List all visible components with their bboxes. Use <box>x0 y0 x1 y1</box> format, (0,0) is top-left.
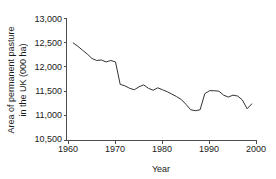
y-tick-label: 12,500 <box>34 38 62 48</box>
x-tick-label: 2000 <box>246 144 266 154</box>
data-series-line <box>73 43 252 111</box>
line-chart: Area of permanent pasture in the UK (000… <box>0 0 276 179</box>
y-tick-label: 12,000 <box>34 62 62 72</box>
x-tick-label: 1980 <box>152 144 172 154</box>
x-tick-label: 1960 <box>58 144 78 154</box>
y-tick-label: 11,500 <box>35 86 62 96</box>
x-tick-label: 1990 <box>199 144 219 154</box>
y-tick-label: 11,000 <box>35 110 62 120</box>
x-axis-title: Year <box>152 164 170 174</box>
y-tick-label: 13,000 <box>34 14 62 24</box>
x-tick-label: 1970 <box>105 144 125 154</box>
y-tick-label: 10,500 <box>34 134 62 144</box>
y-axis-title-line2: in the UK (000 ha) <box>18 43 28 116</box>
chart-figure: Area of permanent pasture in the UK (000… <box>0 0 276 179</box>
y-axis-title-line1: Area of permanent pasture <box>6 26 16 133</box>
